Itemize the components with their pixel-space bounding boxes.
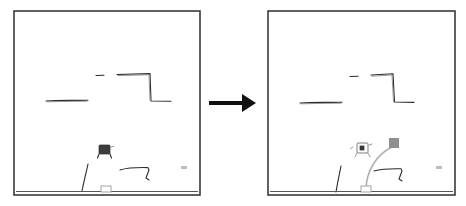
floor-box: [361, 186, 371, 192]
before-panel-frame: [14, 11, 200, 195]
floor-box: [101, 186, 111, 192]
robot-body-icon: [99, 145, 110, 154]
figure-root: [0, 0, 466, 206]
figure-canvas: [0, 0, 466, 206]
corner-speck: [436, 166, 442, 169]
corner-speck: [181, 166, 187, 169]
after-panel-frame: [268, 11, 455, 195]
before-panel[interactable]: [14, 11, 200, 195]
wall-shelf-left-shadow: [301, 103, 341, 104]
transition-arrow-head: [242, 94, 256, 112]
transition-arrow: [209, 94, 256, 112]
target-marker[interactable]: [389, 138, 399, 148]
wall-shelf-left-shadow: [47, 101, 87, 102]
robot-core-icon: [360, 146, 364, 150]
after-panel[interactable]: [268, 11, 455, 195]
